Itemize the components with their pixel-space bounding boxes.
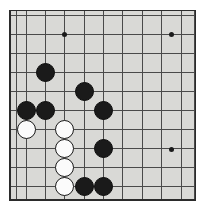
white-stone-4[interactable]	[55, 158, 74, 177]
go-diagram-screenshot	[0, 0, 209, 211]
black-stone-1[interactable]	[36, 63, 55, 82]
black-stone-6[interactable]	[94, 139, 113, 158]
white-stone-3[interactable]	[55, 139, 74, 158]
black-stone-7[interactable]	[75, 177, 94, 196]
black-stone-3[interactable]	[17, 101, 36, 120]
black-stone-2[interactable]	[75, 82, 94, 101]
white-stone-2[interactable]	[55, 120, 74, 139]
white-stone-5[interactable]	[55, 177, 74, 196]
stone-layer	[9, 10, 196, 201]
black-stone-5[interactable]	[94, 101, 113, 120]
black-stone-8[interactable]	[94, 177, 113, 196]
go-board[interactable]	[9, 10, 196, 201]
black-stone-4[interactable]	[36, 101, 55, 120]
white-stone-1[interactable]	[17, 120, 36, 139]
